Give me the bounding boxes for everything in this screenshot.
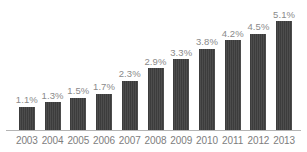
category-label: 2010	[194, 134, 220, 147]
bar	[19, 107, 35, 131]
bar	[122, 81, 138, 130]
bar-group: 1.3%	[45, 8, 61, 130]
bar-group: 4.5%	[250, 8, 266, 130]
bar-value-label: 1.1%	[16, 95, 38, 105]
bar	[250, 34, 266, 130]
bar	[70, 98, 86, 130]
bar-group: 1.7%	[96, 8, 112, 130]
category-label: 2012	[246, 134, 272, 147]
bar-group: 1.1%	[19, 8, 35, 130]
bar-value-label: 5.1%	[273, 10, 295, 20]
category-label: 2003	[14, 134, 40, 147]
category-label: 2011	[220, 134, 246, 147]
bar-group: 3.8%	[199, 8, 215, 130]
category-label: 2006	[91, 134, 117, 147]
x-axis-baseline	[6, 130, 301, 131]
category-label: 2013	[271, 134, 297, 147]
bar	[96, 94, 112, 130]
bar	[276, 21, 292, 130]
bar	[45, 102, 61, 130]
bar-value-label: 3.8%	[196, 37, 218, 47]
category-label: 2008	[143, 134, 169, 147]
bar-group: 2.9%	[148, 8, 164, 130]
bar	[225, 40, 241, 130]
bar-group: 4.2%	[225, 8, 241, 130]
category-label: 2009	[168, 134, 194, 147]
category-axis: 2003200420052006200720082009201020112012…	[14, 134, 297, 148]
category-label: 2004	[40, 134, 66, 147]
bar-value-label: 3.3%	[170, 48, 192, 58]
bar	[199, 49, 215, 130]
bar-value-label: 4.2%	[222, 29, 244, 39]
bar-group: 2.3%	[122, 8, 138, 130]
bar-group: 1.5%	[70, 8, 86, 130]
bar-value-label: 1.3%	[42, 91, 64, 101]
category-label: 2005	[65, 134, 91, 147]
bar-value-label: 1.7%	[93, 82, 115, 92]
bar-group: 3.3%	[173, 8, 189, 130]
bar-value-label: 2.9%	[144, 57, 166, 67]
bar-group: 5.1%	[276, 8, 292, 130]
bar-value-label: 4.5%	[247, 22, 269, 32]
plot-area: 1.1%1.3%1.5%1.7%2.3%2.9%3.3%3.8%4.2%4.5%…	[14, 8, 297, 130]
bar-value-label: 1.5%	[67, 86, 89, 96]
bar	[173, 59, 189, 130]
bar-value-label: 2.3%	[119, 69, 141, 79]
category-label: 2007	[117, 134, 143, 147]
bar	[148, 68, 164, 130]
bar-chart: 1.1%1.3%1.5%1.7%2.3%2.9%3.3%3.8%4.2%4.5%…	[0, 0, 307, 152]
